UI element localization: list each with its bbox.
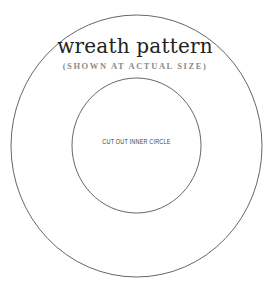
pattern-subtitle: (SHOWN AT ACTUAL SIZE) bbox=[0, 61, 270, 71]
inner-circle-label: CUT OUT INNER CIRCLE bbox=[20, 138, 252, 146]
pattern-title: wreath pattern bbox=[0, 35, 270, 57]
